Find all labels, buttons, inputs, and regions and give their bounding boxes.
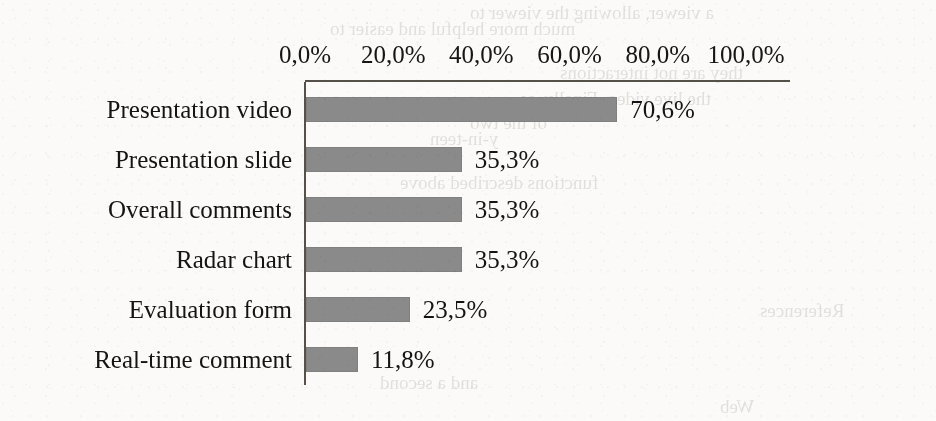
category-label: Evaluation form	[0, 285, 292, 335]
x-axis-tick-80: 80,0%	[626, 40, 691, 70]
x-axis-tick-60: 60,0%	[537, 40, 602, 70]
bar-row: Overall comments35,3%	[0, 185, 936, 235]
bar-row: Presentation slide35,3%	[0, 135, 936, 185]
bar	[306, 347, 358, 372]
bar-value-label: 70,6%	[630, 85, 695, 135]
horizontal-bar-chart: 0,0%20,0%40,0%60,0%80,0%100,0% Presentat…	[0, 0, 936, 421]
category-label: Real-time comment	[0, 335, 292, 385]
bar-row: Presentation video70,6%	[0, 85, 936, 135]
category-label: Overall comments	[0, 185, 292, 235]
bar-value-label: 35,3%	[475, 135, 540, 185]
category-label: Radar chart	[0, 235, 292, 285]
bar-value-label: 35,3%	[475, 235, 540, 285]
x-axis-tick-100: 100,0%	[707, 40, 784, 70]
bar	[306, 97, 617, 122]
bar	[306, 147, 462, 172]
x-axis-tick-20: 20,0%	[361, 40, 426, 70]
category-label: Presentation video	[0, 85, 292, 135]
bar	[306, 297, 410, 322]
bar	[306, 247, 462, 272]
x-axis-tick-0: 0,0%	[279, 40, 331, 70]
x-axis-tick-40: 40,0%	[449, 40, 514, 70]
bar-row: Evaluation form23,5%	[0, 285, 936, 335]
bar-value-label: 11,8%	[371, 335, 435, 385]
scanned-chart-page: a viewer, allowing the viewer tomuch mor…	[0, 0, 936, 421]
category-label: Presentation slide	[0, 135, 292, 185]
plot-top-rule	[305, 80, 790, 82]
bar-value-label: 35,3%	[475, 185, 540, 235]
bar-row: Real-time comment11,8%	[0, 335, 936, 385]
bar	[306, 197, 462, 222]
bar-row: Radar chart35,3%	[0, 235, 936, 285]
bar-value-label: 23,5%	[423, 285, 488, 335]
